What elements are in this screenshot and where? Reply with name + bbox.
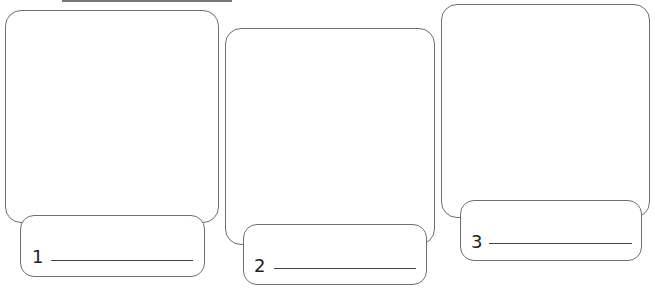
caption-box-2: 2: [243, 224, 427, 285]
panel-number-2: 2: [254, 257, 265, 275]
answer-line-3[interactable]: [489, 243, 632, 244]
picture-frame-3: [441, 4, 650, 218]
picture-frame-1: [5, 10, 219, 223]
answer-line-2[interactable]: [274, 268, 416, 269]
panel-number-3: 3: [471, 233, 482, 251]
answer-line-1[interactable]: [51, 260, 193, 261]
picture-frame-2: [225, 28, 435, 245]
caption-box-1: 1: [20, 215, 205, 277]
top-edge-line: [62, 0, 232, 2]
caption-box-3: 3: [460, 200, 642, 261]
panel-number-1: 1: [32, 248, 43, 266]
